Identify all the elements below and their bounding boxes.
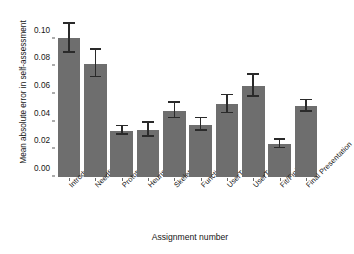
y-axis-tick-label: 0.06 (34, 81, 56, 90)
plot-area: 0.000.020.040.060.080.10IntroductionNeed… (56, 18, 319, 177)
x-axis-title: Assignment number (55, 232, 325, 242)
error-bar-cap-upper (116, 125, 128, 127)
error-bar-cap-lower (300, 110, 312, 112)
y-axis-tick-mark (52, 176, 55, 177)
error-bar-cap-lower (168, 117, 180, 119)
error-bar-cap-lower (274, 147, 286, 149)
bar-group[interactable] (84, 18, 107, 177)
error-bar-cap-lower (195, 129, 207, 131)
y-axis-tick-label: 0.04 (34, 108, 56, 117)
y-axis-tick-mark (52, 120, 55, 121)
y-axis-tick-mark (52, 37, 55, 38)
y-axis-tick-mark (52, 65, 55, 66)
error-bar-cap-lower (247, 95, 259, 97)
error-bar-cap-lower (63, 51, 75, 53)
error-bar-cap-upper (274, 138, 286, 140)
bar[interactable] (58, 38, 81, 177)
error-bar-cap-upper (247, 73, 259, 75)
error-bar-cap-lower (221, 112, 233, 114)
bar[interactable] (163, 111, 186, 177)
error-bar-line (95, 50, 97, 77)
error-bar-cap-lower (90, 76, 102, 78)
error-bar-cap-upper (90, 48, 102, 50)
y-axis-tick-label: 0.08 (34, 53, 56, 62)
bar-group[interactable] (295, 18, 318, 177)
bar-group[interactable] (110, 18, 133, 177)
error-bar-line (252, 75, 254, 97)
error-bar-cap-upper (168, 101, 180, 103)
error-bar-line (226, 95, 228, 113)
bar-group[interactable] (189, 18, 212, 177)
bar[interactable] (189, 125, 212, 177)
y-axis-tick-mark (52, 93, 55, 94)
bar[interactable] (110, 131, 133, 177)
bar[interactable] (216, 104, 239, 177)
error-bar-cap-lower (142, 135, 154, 137)
bar[interactable] (137, 130, 160, 177)
y-axis-tick-label: 0.10 (34, 25, 56, 34)
error-bar-cap-upper (221, 94, 233, 96)
y-axis-title: Mean absolute error in self-assessment (16, 4, 32, 180)
bar-group[interactable] (216, 18, 239, 177)
bar[interactable] (295, 106, 318, 177)
bar-group[interactable] (58, 18, 81, 177)
y-axis-tick-mark (52, 148, 55, 149)
error-bar-line (68, 24, 70, 53)
error-bar-cap-upper (142, 121, 154, 123)
bar-group[interactable] (137, 18, 160, 177)
y-axis-tick-label: 0.00 (34, 164, 56, 173)
error-bar-cap-upper (300, 99, 312, 101)
bar-group[interactable] (268, 18, 291, 177)
bar[interactable] (84, 64, 107, 177)
bar-group[interactable] (163, 18, 186, 177)
bar-group[interactable] (242, 18, 265, 177)
error-bar-cap-upper (63, 22, 75, 24)
y-axis-tick-label: 0.02 (34, 136, 56, 145)
bar[interactable] (242, 86, 265, 177)
error-bar-cap-upper (195, 117, 207, 119)
error-bar-cap-lower (116, 133, 128, 135)
